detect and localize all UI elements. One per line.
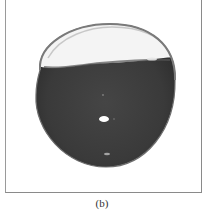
speck-small <box>104 153 110 155</box>
panel-caption: (b) <box>0 197 204 209</box>
droplet <box>30 20 185 167</box>
specular-highlight <box>99 116 109 122</box>
droplet-photo <box>0 0 204 214</box>
rim-reflection <box>147 58 157 61</box>
